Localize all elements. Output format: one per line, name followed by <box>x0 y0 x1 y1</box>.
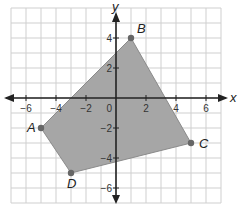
coordinate-plane: xy −6−4−224642−2−4−60 ABCD <box>0 0 240 205</box>
y-tick-label: −2 <box>101 123 113 134</box>
x-axis-label: x <box>229 90 237 105</box>
y-tick-label: −4 <box>101 153 113 164</box>
vertex-b-dot <box>128 35 134 41</box>
vertex-a-dot <box>38 125 44 131</box>
x-tick-label: −4 <box>50 103 62 114</box>
vertex-c-dot <box>188 140 194 146</box>
x-axis-right-arrow-icon <box>218 94 228 102</box>
y-axis-label: y <box>111 0 120 14</box>
y-tick-label: 4 <box>106 33 112 44</box>
vertex-d-label: D <box>67 176 76 191</box>
x-axis-left-arrow-icon <box>4 94 14 102</box>
x-tick-label: 4 <box>173 103 179 114</box>
y-tick-label: 2 <box>106 63 112 74</box>
x-tick-label: −6 <box>20 103 32 114</box>
y-tick-label: −6 <box>101 183 113 194</box>
vertex-c-label: C <box>199 136 209 151</box>
x-tick-label: −2 <box>80 103 92 114</box>
vertex-a-label: A <box>26 120 36 135</box>
vertex-b-label: B <box>137 21 146 36</box>
x-tick-label: 6 <box>203 103 209 114</box>
x-tick-label: 2 <box>143 103 149 114</box>
origin-label: 0 <box>106 103 112 114</box>
